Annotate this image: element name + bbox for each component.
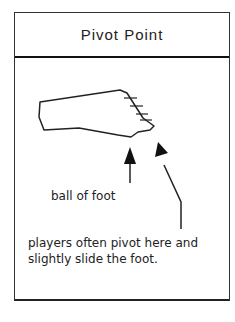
arrow-pivot-icon — [155, 142, 181, 229]
pivot-note-label: players often pivot here and slightly sl… — [28, 235, 218, 267]
foot-diagram-icon — [0, 0, 235, 322]
arrow-ball-of-foot-icon — [124, 147, 136, 183]
ball-of-foot-label: ball of foot — [51, 188, 115, 204]
